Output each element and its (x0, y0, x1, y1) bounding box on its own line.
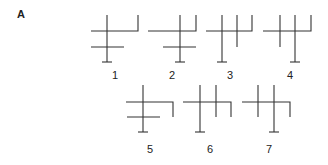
figure-2: 2 (148, 15, 196, 81)
figure-6: 6 (183, 85, 231, 155)
figure-3: 3 (206, 15, 252, 81)
figure-1: 1 (91, 15, 138, 81)
figure-4-label: 4 (287, 69, 293, 81)
figure-4: 4 (263, 15, 311, 81)
figure-2-label: 2 (169, 69, 175, 81)
figure-7-label: 7 (266, 143, 272, 155)
figure-canvas: 1 2 3 4 5 6 (0, 0, 328, 165)
figure-7: 7 (242, 85, 290, 155)
figure-5: 5 (126, 85, 173, 155)
figure-3-label: 3 (227, 69, 233, 81)
figure-1-label: 1 (112, 69, 118, 81)
figure-5-label: 5 (147, 143, 153, 155)
figure-6-label: 6 (207, 143, 213, 155)
